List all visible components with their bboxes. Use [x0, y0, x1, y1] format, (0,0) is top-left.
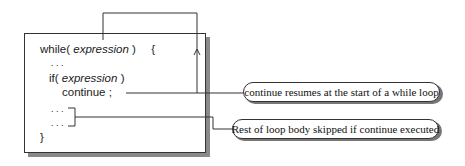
loop-back-line — [103, 13, 197, 93]
callout-rest-skipped: Rest of loop body skipped if continue ex… — [232, 119, 439, 139]
skip-connector — [75, 117, 232, 129]
skip-bracket — [68, 108, 75, 126]
callout-continue-resumes: continue resumes at the start of a while… — [243, 82, 440, 102]
